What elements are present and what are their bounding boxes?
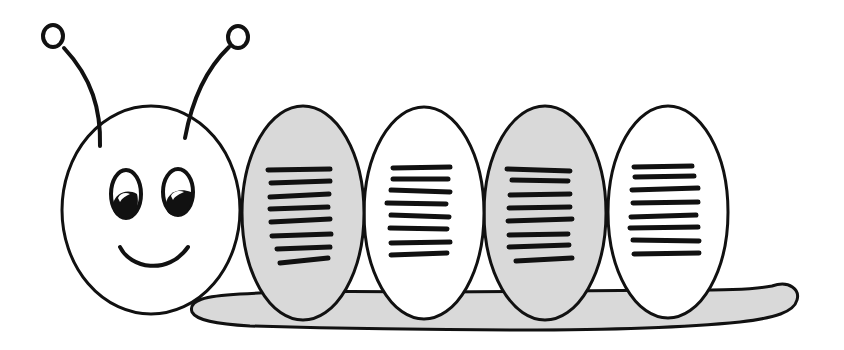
eye-left <box>111 170 141 218</box>
body-segment-2 <box>364 107 484 319</box>
antenna-left <box>43 25 100 146</box>
body-segment-1 <box>242 106 364 320</box>
body-segment-4 <box>608 106 728 318</box>
body-segment-3 <box>484 106 606 320</box>
caterpillar-head <box>62 106 240 314</box>
eye-right <box>163 169 193 216</box>
caterpillar-illustration <box>0 0 844 350</box>
